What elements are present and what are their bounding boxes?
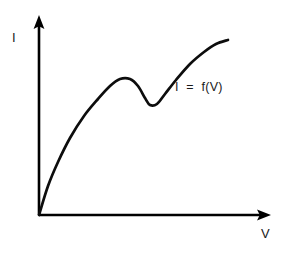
curve-equation-annotation: I = f(V) bbox=[175, 81, 223, 94]
x-axis-label: V bbox=[261, 227, 270, 240]
iv-curve-path bbox=[39, 40, 228, 215]
y-axis-label: I bbox=[12, 31, 16, 44]
figure-canvas bbox=[0, 0, 286, 254]
iv-characteristic-figure: I V I = f(V) bbox=[0, 0, 286, 254]
